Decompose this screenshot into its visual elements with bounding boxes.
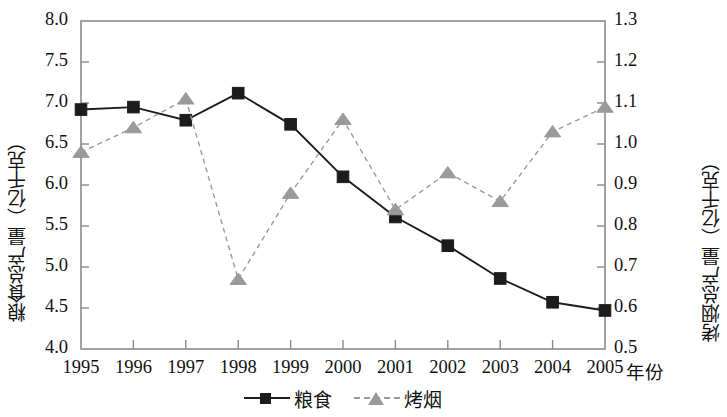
x-axis-tick-label: 1998 bbox=[212, 358, 264, 376]
data-point-marker bbox=[337, 171, 349, 183]
series-line-2 bbox=[81, 99, 605, 279]
plot-frame bbox=[81, 21, 605, 349]
x-axis-tick-label: 1999 bbox=[265, 358, 317, 376]
x-axis-tick-label: 2003 bbox=[474, 358, 526, 376]
x-axis-tick-label: 1996 bbox=[107, 358, 159, 376]
chart-legend: 粮食烤烟 bbox=[244, 384, 504, 412]
right-axis-tick-label: 1.1 bbox=[614, 92, 660, 110]
right-axis-tick-label: 1.3 bbox=[614, 10, 660, 28]
left-axis-tick-label: 6.0 bbox=[22, 174, 68, 192]
data-point-marker bbox=[282, 187, 298, 199]
right-axis-tick-label: 0.6 bbox=[614, 297, 660, 315]
data-point-marker bbox=[335, 113, 351, 125]
data-point-marker bbox=[599, 305, 611, 317]
data-point-marker bbox=[178, 93, 194, 105]
data-point-marker bbox=[75, 104, 87, 116]
data-point-marker bbox=[544, 125, 560, 137]
legend-item-1[interactable]: 粮食 bbox=[244, 385, 332, 412]
x-axis-tick-label: 2004 bbox=[527, 358, 579, 376]
data-point-marker bbox=[128, 101, 140, 113]
right-axis-tick-label: 1.0 bbox=[614, 133, 660, 151]
x-axis-tick-label: 2000 bbox=[317, 358, 369, 376]
legend-item-2[interactable]: 烤烟 bbox=[354, 385, 442, 412]
data-point-marker bbox=[492, 195, 508, 207]
right-axis-title: 烤烟总产量（亿千克） bbox=[698, 78, 725, 342]
left-axis-tick-label: 8.0 bbox=[22, 10, 68, 28]
data-point-marker bbox=[494, 273, 506, 285]
legend-marker-shape bbox=[368, 392, 384, 405]
data-point-marker bbox=[547, 296, 559, 308]
data-point-marker bbox=[73, 146, 89, 158]
left-axis-tick-label: 5.0 bbox=[22, 256, 68, 274]
legend-label: 烤烟 bbox=[404, 385, 442, 412]
left-axis-tick-label: 7.5 bbox=[22, 51, 68, 69]
data-point-marker bbox=[180, 114, 192, 126]
legend-label: 粮食 bbox=[294, 385, 332, 412]
data-point-marker bbox=[440, 166, 456, 178]
left-axis-tick-label: 6.5 bbox=[22, 133, 68, 151]
left-axis-tick-label: 5.5 bbox=[22, 215, 68, 233]
left-axis-tick-label: 4.5 bbox=[22, 297, 68, 315]
x-axis-tick-label: 2005 bbox=[579, 358, 631, 376]
x-axis-tick-label: 2002 bbox=[422, 358, 474, 376]
data-point-marker bbox=[232, 87, 244, 99]
series-line-1 bbox=[81, 93, 605, 310]
x-axis-name: 年份 bbox=[626, 358, 664, 384]
right-axis-tick-label: 0.9 bbox=[614, 174, 660, 192]
legend-marker-shape bbox=[260, 393, 271, 404]
x-axis-tick-label: 1995 bbox=[55, 358, 107, 376]
legend-square-marker-icon bbox=[244, 391, 290, 405]
right-axis-tick-label: 0.7 bbox=[614, 256, 660, 274]
data-point-marker bbox=[285, 119, 297, 131]
data-point-marker bbox=[125, 121, 141, 132]
right-axis-tick-label: 0.5 bbox=[614, 338, 660, 356]
x-axis-tick-label: 1997 bbox=[160, 358, 212, 376]
left-axis-tick-label: 7.0 bbox=[22, 92, 68, 110]
data-point-marker bbox=[442, 240, 454, 252]
x-axis-tick-label: 2001 bbox=[369, 358, 421, 376]
chart-figure: 粮食总产量（亿千克） 烤烟总产量（亿千克） 年份 粮食烤烟 4.04.55.05… bbox=[0, 0, 727, 417]
data-point-marker bbox=[230, 273, 246, 285]
right-axis-tick-label: 0.8 bbox=[614, 215, 660, 233]
data-point-marker bbox=[387, 203, 403, 215]
legend-triangle-marker-icon bbox=[354, 391, 400, 405]
left-axis-tick-label: 4.0 bbox=[22, 338, 68, 356]
right-axis-tick-label: 1.2 bbox=[614, 51, 660, 69]
